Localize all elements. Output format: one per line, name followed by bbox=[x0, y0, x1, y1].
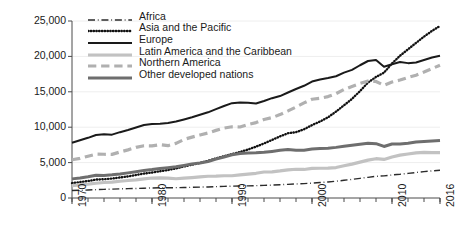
x-tick-label: 1980 bbox=[156, 184, 168, 207]
series-line bbox=[72, 152, 440, 185]
line-chart: Constant 2010 USD (billions) 05,00010,00… bbox=[0, 0, 460, 238]
x-tick-label: 2016 bbox=[444, 184, 456, 207]
legend-label: Asia and the Pacific bbox=[139, 22, 231, 32]
legend: AfricaAsia and the PacificEuropeLatin Am… bbox=[88, 10, 292, 80]
legend-swatch-icon bbox=[88, 22, 132, 32]
legend-swatch-icon bbox=[88, 34, 132, 44]
y-axis-ticks bbox=[68, 21, 72, 198]
y-tick-label: 10,000 bbox=[14, 120, 66, 132]
legend-item[interactable]: Other developed nations bbox=[88, 68, 292, 80]
x-tick-label: 1990 bbox=[236, 184, 248, 207]
legend-item[interactable]: Asia and the Pacific bbox=[88, 22, 292, 34]
legend-swatch-icon bbox=[88, 57, 132, 67]
legend-swatch-icon bbox=[88, 46, 132, 56]
legend-item[interactable]: Africa bbox=[88, 10, 292, 22]
legend-item[interactable]: Latin America and the Caribbean bbox=[88, 45, 292, 57]
legend-label: Africa bbox=[139, 11, 166, 21]
x-tick-label: 1970 bbox=[76, 184, 88, 207]
legend-label: Latin America and the Caribbean bbox=[139, 46, 292, 56]
legend-label: Europe bbox=[139, 34, 173, 44]
legend-swatch-icon bbox=[88, 11, 132, 21]
legend-item[interactable]: Northern America bbox=[88, 56, 292, 68]
legend-label: Other developed nations bbox=[139, 69, 253, 79]
y-tick-label: 15,000 bbox=[14, 85, 66, 97]
x-tick-label: 2010 bbox=[396, 184, 408, 207]
y-tick-label: 5,000 bbox=[14, 156, 66, 168]
legend-label: Northern America bbox=[139, 57, 221, 67]
y-tick-label: 20,000 bbox=[14, 49, 66, 61]
legend-item[interactable]: Europe bbox=[88, 33, 292, 45]
y-tick-label: 0 bbox=[14, 191, 66, 203]
x-axis-ticks bbox=[72, 198, 440, 204]
legend-swatch-icon bbox=[88, 69, 132, 79]
y-tick-label: 25,000 bbox=[14, 14, 66, 26]
x-tick-label: 2000 bbox=[316, 184, 328, 207]
